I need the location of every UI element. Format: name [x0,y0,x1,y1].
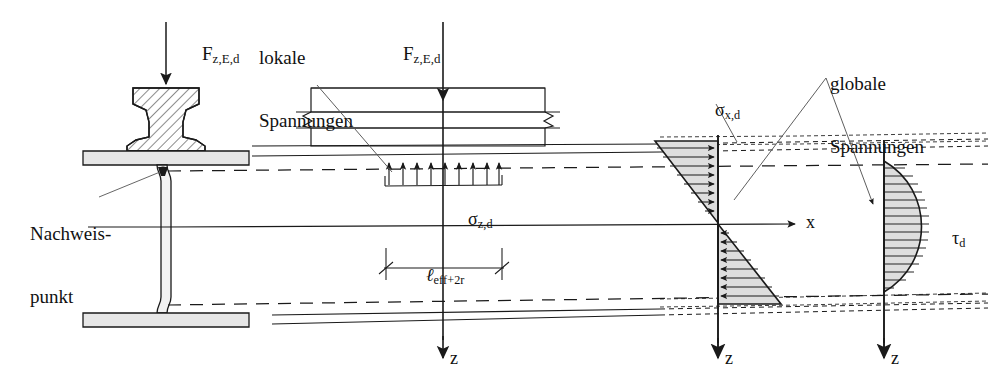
force-label-mid: Fz,E,d [384,22,441,88]
rail-cross-section [127,88,205,151]
beam-bottom-flange-lines [272,303,988,324]
ibeam-top-flange [83,151,249,165]
check-point-label-line2: punkt [30,286,111,307]
local-stress-title: lokale Spannungen [259,4,353,174]
sigma-x-lower-triangle [718,224,781,304]
tau-label: τd [934,208,965,271]
axis-z-label-tau: z [891,348,899,368]
axis-x-label: x [806,212,815,232]
local-stress-title-line1: lokale [259,47,353,68]
sigma-z-label: σz,d [450,189,493,252]
axis-z-label-sigma: z [725,348,733,368]
check-point-label-line1: Nachweis- [30,223,111,244]
dimension-label: ℓeff+2r [408,245,465,308]
global-stress-title: globale Spannungen [830,30,924,200]
ibeam-web [157,165,171,313]
global-stress-title-line1: globale [830,73,924,94]
force-label-left: Fz,E,d [183,22,240,88]
global-stress-title-line2: Spannungen [830,136,924,157]
engineering-diagram: Fz,E,d Fz,E,d lokale Spannungen globale … [0,0,988,379]
sigma-x-label: σx,d [697,80,740,143]
check-point-label: Nachweis- punkt [30,180,111,350]
local-stress-title-line2: Spannungen [259,110,353,131]
axis-z-label-mid: z [450,348,458,368]
